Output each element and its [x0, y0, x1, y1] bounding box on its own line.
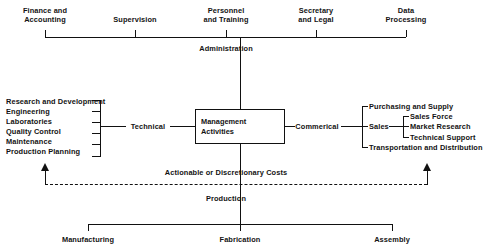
technical-to-center-connector: [170, 126, 195, 127]
admin-tick-data-processing: [406, 30, 407, 37]
production-tick-fabrication: [240, 224, 241, 231]
production-item-assembly: Assembly: [374, 235, 410, 244]
technical-tick-1: [92, 111, 100, 112]
technical-tick-0: [92, 100, 100, 101]
production-tick-assembly: [392, 224, 393, 231]
technical-item-production-planning: Production Planning: [6, 147, 80, 156]
commercial-label: Commerical: [295, 122, 338, 131]
technical-tick-3: [92, 133, 100, 134]
costs-flow-right-arrow-icon: [423, 163, 431, 171]
production-item-fabrication: Fabrication: [220, 235, 261, 244]
admin-item-supervision: Supervision: [113, 15, 156, 24]
commercial-item-transportation-and-distribution: Transportation and Distribution: [369, 143, 483, 152]
sales-tick-market-research: [403, 126, 409, 127]
costs-flow-left-arrow-icon: [41, 163, 49, 171]
admin-tick-personnel: [226, 30, 227, 37]
costs-flow-left-riser: [45, 170, 46, 185]
production-label: Production: [206, 194, 246, 203]
admin-tick-supervision: [135, 30, 136, 37]
commercial-to-bracket-connector: [341, 126, 362, 127]
technical-item-maintenance: Maintenance: [6, 137, 52, 146]
admin-horizontal-bar: [45, 37, 406, 38]
sales-item-market-research: Market Research: [410, 122, 471, 131]
organization-diagram: Finance and Accounting Supervision Perso…: [0, 0, 484, 249]
technical-tick-5: [92, 156, 100, 157]
management-activities-label: Management Activities: [201, 117, 246, 136]
technical-item-engineering: Engineering: [6, 107, 50, 116]
sales-to-bracket-connector: [389, 126, 403, 127]
administration-label: Administration: [199, 44, 253, 53]
commercial-item-purchasing-and-supply: Purchasing and Supply: [369, 102, 453, 111]
costs-flow-right-riser: [427, 170, 428, 185]
technical-tick-2: [92, 122, 100, 123]
commercial-tick-transportation: [362, 147, 368, 148]
admin-tick-finance: [45, 30, 46, 37]
production-tick-manufacturing: [88, 224, 89, 231]
admin-item-data-processing: Data Processing: [386, 6, 427, 24]
technical-item-research-and-development: Research and Development: [6, 97, 105, 106]
management-activities-box: Management Activities: [195, 109, 285, 144]
admin-tick-secretary: [316, 30, 317, 37]
admin-item-personnel-and-training: Personnel and Training: [203, 6, 248, 24]
sales-item-technical-support: Technical Support: [410, 133, 476, 142]
production-item-manufacturing: Manufacturing: [62, 235, 114, 244]
commercial-tick-sales: [362, 126, 368, 127]
sales-item-sales-force: Sales Force: [410, 112, 453, 121]
costs-flow-dashed-line: [45, 184, 427, 185]
commercial-tick-purchasing: [362, 106, 368, 107]
sales-label: Sales: [369, 122, 389, 131]
technical-bracket-spine: [100, 100, 101, 157]
admin-to-center-connector: [240, 37, 241, 109]
sales-tick-sales-force: [403, 116, 409, 117]
center-to-commercial-connector: [285, 126, 295, 127]
admin-item-secretary-and-legal: Secretary and Legal: [298, 6, 333, 24]
sales-tick-technical-support: [403, 137, 409, 138]
technical-item-laboratories: Laboratories: [6, 117, 52, 126]
technical-label: Technical: [131, 122, 165, 131]
technical-item-quality-control: Quality Control: [6, 127, 61, 136]
technical-bracket-to-label-connector: [100, 126, 126, 127]
costs-flow-label: Actionable or Discretionary Costs: [165, 168, 287, 177]
admin-item-finance-and-accounting: Finance and Accounting: [23, 6, 67, 24]
technical-tick-4: [92, 144, 100, 145]
